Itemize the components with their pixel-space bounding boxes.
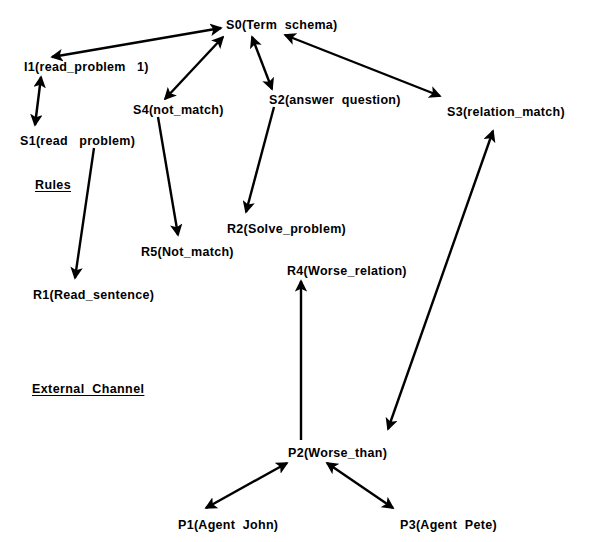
edge-i1-s1 <box>35 77 41 125</box>
node-p2: P2(Worse_than) <box>288 446 387 460</box>
edge-p2-s3 <box>388 131 493 429</box>
node-s2: S2(answer question) <box>269 93 401 107</box>
edges <box>35 28 493 508</box>
node-s1: S1(read problem) <box>20 134 135 148</box>
node-r4: R4(Worse_relation) <box>287 264 407 278</box>
edge-s2-r2 <box>246 107 274 212</box>
edge-s4-s0 <box>165 37 223 99</box>
edge-s1-r1 <box>75 148 94 278</box>
node-s3: S3(relation_match) <box>447 105 565 119</box>
edge-s0-s2 <box>252 37 272 89</box>
section-label-rules: Rules <box>35 178 71 192</box>
node-r1: R1(Read_sentence) <box>33 288 154 302</box>
node-p3: P3(Agent Pete) <box>400 518 497 532</box>
node-r2: R2(Solve_problem) <box>227 222 346 236</box>
edge-p1-p2 <box>206 463 287 508</box>
node-s0: S0(Term schema) <box>226 18 338 32</box>
edge-s4-r5 <box>158 117 178 235</box>
node-i1: I1(read_problem 1) <box>24 60 149 74</box>
edge-s0-s3 <box>285 35 440 96</box>
section-label-external-channel: External Channel <box>32 382 144 396</box>
node-s4: S4(not_match) <box>133 103 224 117</box>
diagram-canvas: S0(Term schema)I1(read_problem 1)S4(not_… <box>0 0 597 542</box>
edge-p3-p2 <box>327 463 393 508</box>
node-p1: P1(Agent John) <box>178 518 278 532</box>
node-r5: R5(Not_match) <box>141 245 234 259</box>
edge-i1-s0 <box>52 28 221 57</box>
